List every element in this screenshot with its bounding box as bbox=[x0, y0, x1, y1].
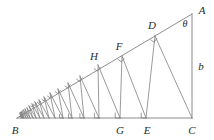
label-vertex-f: F bbox=[116, 41, 123, 52]
label-vertex-c: C bbox=[188, 125, 195, 136]
right-angle-mark-j bbox=[65, 85, 71, 89]
label-vertex-b: B bbox=[12, 125, 19, 136]
segment-h-foot bbox=[98, 65, 99, 118]
segment-f-g bbox=[120, 56, 122, 118]
label-foot-g: G bbox=[116, 125, 124, 136]
right-angle-mark-m bbox=[42, 98, 46, 101]
segment-f-e bbox=[122, 56, 146, 118]
segment-i-foot bbox=[80, 76, 99, 118]
segment-i-base bbox=[80, 76, 84, 118]
main-triangle bbox=[17, 14, 192, 118]
cascade-segments bbox=[20, 36, 192, 118]
label-vertex-a: A bbox=[199, 5, 206, 16]
right-angle-mark-i bbox=[76, 78, 82, 82]
label-side-b: b bbox=[198, 61, 204, 72]
right-angle-marks-base bbox=[60, 113, 147, 118]
segment-d-c bbox=[155, 36, 192, 118]
geometry-figure: A θ b D F H B G E C bbox=[0, 0, 214, 140]
label-vertex-d: D bbox=[148, 20, 156, 31]
segment-d-e bbox=[146, 36, 155, 118]
label-foot-e: E bbox=[144, 125, 151, 136]
hypotenuse-line-ba bbox=[17, 14, 192, 118]
segment-n-foot bbox=[39, 100, 49, 118]
segment-h-g bbox=[98, 65, 120, 118]
label-angle-theta: θ bbox=[183, 19, 188, 29]
label-vertex-h: H bbox=[90, 51, 98, 62]
